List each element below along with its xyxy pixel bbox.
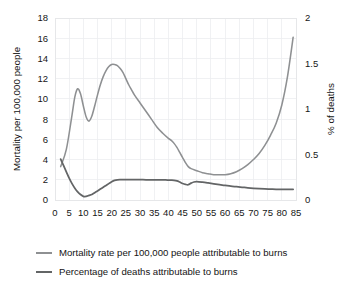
x-axis-tick-label: 45 [177,207,188,218]
legend-item-mortality: Mortality rate per 100,000 people attrib… [36,243,336,262]
x-axis-tick-label: 65 [234,207,245,218]
x-axis-tick-label: 0 [52,207,57,218]
legend-label-mortality: Mortality rate per 100,000 people attrib… [59,248,287,258]
line-chart: 02468101214161800.511.520510152025303540… [0,0,344,232]
legend-swatch-mortality [36,252,52,254]
y-axis-tick-label: 2 [43,174,48,185]
y-axis-tick-label: 16 [37,33,48,44]
legend-label-percentage: Percentage of deaths attributable to bur… [59,267,238,277]
x-axis-tick-label: 80 [277,207,288,218]
series-line-mortality [61,37,293,175]
plot-border-group [55,18,296,200]
x-axis-tick-label: 60 [220,207,231,218]
y-axis-tick-label: 0 [43,194,48,205]
x-axis-tick-label: 35 [149,207,160,218]
chart-figure: 02468101214161800.511.520510152025303540… [0,0,344,294]
y-axis-tick-label: 6 [43,134,48,145]
axis-titles-group: Mortality per 100,000 people% of deaths [11,46,336,171]
y-axis-title: Mortality per 100,000 people [11,46,22,171]
x-axis-tick-label: 30 [135,207,146,218]
y2-axis-tick-label: 0 [305,194,310,205]
y-axis-tick-label: 12 [37,73,48,84]
legend-item-percentage: Percentage of deaths attributable to bur… [36,262,336,281]
chart-legend: Mortality rate per 100,000 people attrib… [36,243,336,281]
x-axis-tick-label: 15 [92,207,103,218]
x-axis-tick-label: 85 [291,207,302,218]
gridlines-group [55,18,296,200]
x-axis-tick-label: 70 [248,207,259,218]
x-axis-tick-label: 55 [206,207,217,218]
x-axis-tick-label: 40 [163,207,174,218]
y2-axis-tick-label: 2 [305,12,310,23]
x-axis-tick-label: 50 [191,207,202,218]
x-axis-tick-label: 20 [106,207,117,218]
y2-axis-title: % of deaths [325,83,336,135]
y2-axis-tick-label: 1 [305,103,310,114]
y-axis-tick-label: 4 [43,154,48,165]
y-axis-tick-label: 10 [37,93,48,104]
series-line-percentage [61,159,293,196]
series-group [61,37,293,196]
x-axis-tick-label: 5 [67,207,72,218]
x-axis-tick-label: 25 [121,207,132,218]
legend-swatch-percentage [36,271,52,273]
tick-labels-group: 02468101214161800.511.520510152025303540… [37,12,318,218]
y-axis-tick-label: 8 [43,114,48,125]
y-axis-tick-label: 14 [37,53,48,64]
y2-axis-tick-label: 0.5 [305,149,318,160]
y-axis-tick-label: 18 [37,12,48,23]
y2-axis-tick-label: 1.5 [305,58,318,69]
x-axis-tick-label: 10 [78,207,89,218]
x-axis-tick-label: 75 [262,207,273,218]
plot-area-wrapper: 02468101214161800.511.520510152025303540… [0,0,344,232]
